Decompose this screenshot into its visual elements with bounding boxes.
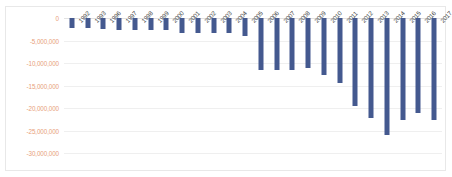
bar[interactable] bbox=[384, 18, 389, 135]
plot-area: 1992199319961997199819992000200120022003… bbox=[64, 18, 442, 161]
bar[interactable] bbox=[321, 18, 326, 75]
bar[interactable] bbox=[258, 18, 263, 70]
bar-series: 1992199319961997199819992000200120022003… bbox=[64, 18, 442, 161]
bar-group[interactable]: 2007 bbox=[269, 18, 285, 161]
y-axis-tick-label: -15,000,000 bbox=[26, 82, 59, 89]
bar-group[interactable]: 2008 bbox=[285, 18, 301, 161]
bar[interactable] bbox=[180, 18, 185, 33]
bar-group[interactable]: 2017 bbox=[426, 18, 442, 161]
bar-group[interactable]: 2000 bbox=[159, 18, 175, 161]
bar[interactable] bbox=[69, 18, 74, 28]
bar-group[interactable]: 1996 bbox=[96, 18, 112, 161]
bar-group[interactable]: 2011 bbox=[332, 18, 348, 161]
bar[interactable] bbox=[306, 18, 311, 68]
y-axis-tick-label: 0 bbox=[56, 15, 59, 22]
y-axis-tick-label: -10,000,000 bbox=[26, 60, 59, 67]
bar-group[interactable]: 1993 bbox=[80, 18, 96, 161]
bar-group[interactable]: 2004 bbox=[222, 18, 238, 161]
bar-group[interactable]: 2014 bbox=[379, 18, 395, 161]
chart-container: 0-5,000,000-10,000,000-15,000,000-20,000… bbox=[5, 6, 446, 171]
bar-group[interactable]: 2005 bbox=[237, 18, 253, 161]
bar-group[interactable]: 1997 bbox=[111, 18, 127, 161]
bar[interactable] bbox=[243, 18, 248, 36]
bar[interactable] bbox=[416, 18, 421, 113]
bar-group[interactable]: 1998 bbox=[127, 18, 143, 161]
bar[interactable] bbox=[101, 18, 106, 29]
bar-group[interactable]: 2015 bbox=[395, 18, 411, 161]
bar[interactable] bbox=[432, 18, 437, 120]
bar[interactable] bbox=[164, 18, 169, 30]
bar-group[interactable]: 2006 bbox=[253, 18, 269, 161]
bar[interactable] bbox=[195, 18, 200, 33]
bar-group[interactable]: 2012 bbox=[348, 18, 364, 161]
bar[interactable] bbox=[117, 18, 122, 30]
bar-group[interactable]: 2013 bbox=[363, 18, 379, 161]
bar-group[interactable]: 2009 bbox=[300, 18, 316, 161]
bar-group[interactable]: 2010 bbox=[316, 18, 332, 161]
y-axis-tick-label: -30,000,000 bbox=[26, 150, 59, 157]
bar[interactable] bbox=[211, 18, 216, 33]
bar-group[interactable]: 2002 bbox=[190, 18, 206, 161]
y-axis-tick-label: -25,000,000 bbox=[26, 127, 59, 134]
bar[interactable] bbox=[132, 18, 137, 30]
y-axis-tick-label: -20,000,000 bbox=[26, 105, 59, 112]
x-axis-tick-label: 2017 bbox=[439, 9, 452, 23]
bar-group[interactable]: 2003 bbox=[206, 18, 222, 161]
bar[interactable] bbox=[369, 18, 374, 118]
bar[interactable] bbox=[148, 18, 153, 30]
bar[interactable] bbox=[353, 18, 358, 106]
bar[interactable] bbox=[274, 18, 279, 70]
bar[interactable] bbox=[337, 18, 342, 83]
bar[interactable] bbox=[85, 18, 90, 28]
bar[interactable] bbox=[227, 18, 232, 33]
y-axis-labels: 0-5,000,000-10,000,000-15,000,000-20,000… bbox=[6, 18, 62, 161]
bar-group[interactable]: 1999 bbox=[143, 18, 159, 161]
bar-group[interactable]: 1992 bbox=[64, 18, 80, 161]
bar[interactable] bbox=[400, 18, 405, 120]
bar-group[interactable]: 2016 bbox=[411, 18, 427, 161]
bar[interactable] bbox=[290, 18, 295, 70]
y-axis-tick-label: -5,000,000 bbox=[30, 37, 59, 44]
bar-group[interactable]: 2001 bbox=[174, 18, 190, 161]
